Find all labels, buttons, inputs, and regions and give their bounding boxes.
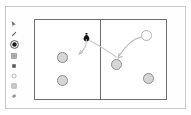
pencil-icon <box>11 31 17 37</box>
eraser-icon <box>11 93 17 99</box>
filled-circle-icon <box>10 40 19 49</box>
tool-eraser[interactable] <box>9 92 19 99</box>
cursor-arrow-icon <box>11 21 17 27</box>
right-arrow-layer <box>101 20 167 99</box>
tool-filled-square[interactable] <box>9 62 19 69</box>
tool-square-outline[interactable] <box>9 82 19 89</box>
grid-icon <box>11 53 17 59</box>
left-node-2[interactable] <box>57 75 68 86</box>
right-node-2[interactable] <box>143 73 154 84</box>
app-root <box>0 0 191 115</box>
tool-filled-circle[interactable] <box>9 40 19 49</box>
tool-grid[interactable] <box>9 52 19 59</box>
pin-marker-icon[interactable] <box>83 28 90 37</box>
right-node-hollow[interactable] <box>141 30 152 41</box>
circle-outline-icon <box>11 73 17 79</box>
filled-square-icon <box>11 63 17 69</box>
right-panel[interactable] <box>101 20 167 99</box>
right-node-target[interactable] <box>111 59 122 70</box>
tool-circle-outline[interactable] <box>9 72 19 79</box>
tool-pencil[interactable] <box>9 30 19 37</box>
left-panel[interactable] <box>35 20 101 99</box>
square-outline-icon <box>11 83 17 89</box>
left-node-1[interactable] <box>57 52 68 63</box>
drawing-toolbar[interactable] <box>7 20 21 100</box>
tool-pointer[interactable] <box>9 20 19 27</box>
diagram-canvas[interactable] <box>34 19 167 100</box>
